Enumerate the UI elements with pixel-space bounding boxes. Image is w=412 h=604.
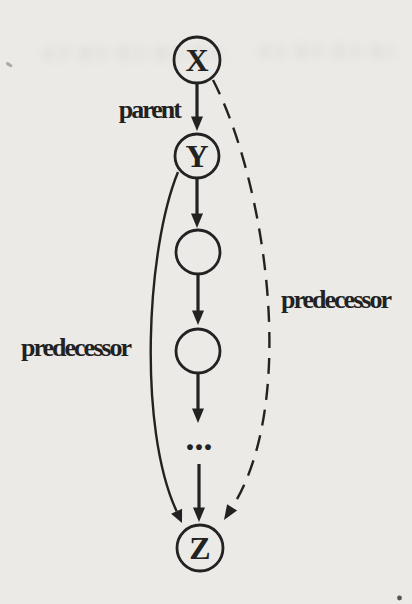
label-predecessor-left: predecessor — [21, 333, 131, 362]
edge-y-z-predecessor-curve — [151, 172, 178, 511]
scanned-page: X Y Z ... parent predecessor predecessor — [0, 0, 412, 604]
node-mid2-circle — [176, 329, 220, 373]
edge-mid1-mid2-arrowhead — [192, 311, 204, 326]
node-x-label: X — [185, 42, 208, 78]
scan-speck-corner — [397, 596, 402, 601]
edge-ellipsis-z-arrowhead — [193, 508, 205, 523]
scan-speck-left — [5, 62, 13, 68]
label-predecessor-right: predecessor — [281, 285, 391, 314]
ellipsis-label: ... — [186, 418, 213, 458]
edge-x-z-predecessor-curve — [213, 80, 269, 507]
edge-y-mid1-arrowhead — [191, 214, 203, 229]
graph-figure: X Y Z ... parent predecessor predecessor — [0, 0, 412, 604]
node-z-label: Z — [189, 530, 210, 566]
edge-x-z-predecessor-arrowhead — [224, 504, 237, 520]
figure-text: X Y Z ... parent predecessor predecessor — [21, 42, 391, 566]
node-mid1-circle — [176, 230, 220, 274]
edge-x-y-arrowhead — [191, 117, 203, 132]
label-parent: parent — [119, 95, 183, 124]
node-y-label: Y — [185, 138, 208, 174]
